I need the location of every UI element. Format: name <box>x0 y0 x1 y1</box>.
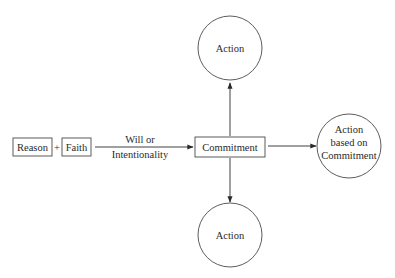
edge-label-line-2: Intentionality <box>112 149 169 160</box>
action-top-label: Action <box>216 43 245 54</box>
action-bottom-label: Action <box>216 230 245 241</box>
action-top-node: Action <box>198 16 262 80</box>
reason-node: Reason <box>13 138 52 156</box>
action-right-line-1: Action <box>335 124 364 135</box>
action-right-line-2: based on <box>330 137 368 148</box>
edge-label-line-1: Will or <box>125 134 155 145</box>
action-bottom-node: Action <box>198 203 262 267</box>
commitment-label: Commitment <box>202 142 258 153</box>
faith-label: Faith <box>66 142 88 153</box>
faith-node: Faith <box>62 138 91 156</box>
plus-sign: + <box>54 142 60 153</box>
diagram-canvas: Reason + Faith Will or Intentionality Co… <box>0 0 395 278</box>
commitment-node: Commitment <box>195 137 265 157</box>
reason-label: Reason <box>17 142 49 153</box>
action-right-node: Action based on Commitment <box>317 114 381 178</box>
will-arrow: Will or Intentionality <box>95 134 193 160</box>
action-right-line-3: Commitment <box>321 150 377 161</box>
